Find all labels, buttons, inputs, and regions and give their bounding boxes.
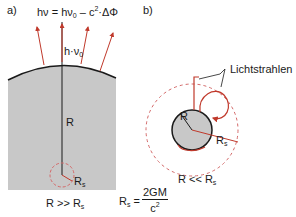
ray-a-4: [100, 33, 113, 71]
label-pointer-b: [199, 69, 225, 87]
panel-b-label: b): [143, 5, 153, 16]
ray-a-1: [37, 27, 44, 65]
formula-lhs: hν = hν: [37, 6, 73, 18]
schwarzschild-lhs: Rs =: [119, 196, 140, 208]
formula-rhs-post: ·ΔΦ: [98, 6, 118, 18]
schwarzschild-fraction: 2GM c2: [142, 186, 168, 214]
rs-label-a: Rs: [74, 176, 85, 188]
condition-b: R << Rs: [178, 174, 216, 186]
condition-a: R >> Rs: [46, 198, 84, 210]
energy-formula: hν = hν0 – c2·ΔΦ: [37, 5, 118, 19]
light-ray-b-1: [194, 77, 199, 110]
radius-label-a: R: [66, 117, 74, 128]
diagram-graphics: [0, 0, 296, 217]
light-rays-label: Lichtstrahlen: [230, 64, 292, 75]
formula-rhs-pre: – c: [77, 6, 95, 18]
fraction-numerator: 2GM: [142, 186, 168, 200]
fraction-denominator: c2: [142, 200, 168, 214]
panel-a-label: a): [7, 5, 17, 16]
photon-energy-label: h·ν0: [64, 46, 83, 58]
rs-label-b: Rs: [216, 135, 227, 147]
radius-label-b: R: [180, 111, 188, 122]
